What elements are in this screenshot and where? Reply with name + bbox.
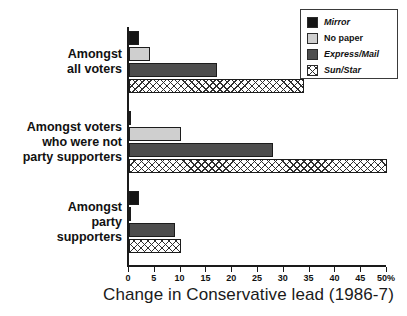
legend-swatch-icon [307, 17, 318, 28]
category-label-line: party supporters [0, 150, 122, 165]
category-label-line: Amongst [0, 200, 122, 215]
x-axis-tick [257, 267, 258, 272]
legend-item-sun-star[interactable]: Sun/Star [307, 63, 397, 78]
category-label-line: all voters [0, 62, 122, 77]
category-label-line: Amongst voters [0, 120, 122, 135]
x-axis-tick-label: 40 [329, 273, 339, 283]
legend-swatch-icon [307, 49, 318, 60]
x-axis-tick [128, 267, 129, 272]
x-axis-tick-label: 10 [175, 273, 185, 283]
x-axis-tick [334, 267, 335, 272]
legend-item-mirror[interactable]: Mirror [307, 15, 397, 30]
bar [129, 79, 304, 93]
bar [129, 191, 139, 205]
x-axis-tick-label: 45 [355, 273, 365, 283]
x-axis-tick [309, 267, 310, 272]
bar [129, 63, 217, 77]
x-axis-tick-label: 30 [278, 273, 288, 283]
x-axis-tick [386, 267, 387, 272]
bar [129, 207, 131, 221]
bar [129, 143, 273, 157]
category-label-line: who were not [0, 135, 122, 150]
legend-item-no-paper[interactable]: No paper [307, 31, 397, 46]
category-axis-labels: Amongstall votersAmongst voterswho were … [0, 27, 122, 265]
bar [129, 239, 181, 253]
legend-label: Mirror [324, 17, 350, 28]
x-axis-tick-label: 0 [125, 273, 130, 283]
bar [129, 31, 139, 45]
x-axis-tick [154, 267, 155, 272]
legend: MirrorNo paperExpress/MailSun/Star [300, 9, 398, 79]
x-axis-tick [231, 267, 232, 272]
x-axis-tick-label: 25 [252, 273, 262, 283]
x-axis-tick [360, 267, 361, 272]
bar [129, 127, 181, 141]
bar [129, 223, 175, 237]
x-axis-tick-label: 15 [200, 273, 210, 283]
category-label-line: supporters [0, 230, 122, 245]
x-axis-tick [205, 267, 206, 272]
bar-chart: Amongstall votersAmongst voterswho were … [0, 0, 407, 316]
x-axis-tick-label: 35 [304, 273, 314, 283]
category-label: Amongstall voters [0, 47, 122, 77]
category-label-line: party [0, 215, 122, 230]
x-axis-title: Change in Conservative lead (1986-7) [90, 285, 407, 305]
legend-swatch-icon [307, 65, 318, 76]
legend-label: Express/Mail [324, 49, 379, 60]
bar [129, 111, 131, 125]
x-axis-tick [283, 267, 284, 272]
category-label: Amongst voterswho were notparty supporte… [0, 120, 122, 165]
x-axis-tick-label: 5 [151, 273, 156, 283]
category-label: Amongstpartysupporters [0, 200, 122, 245]
category-label-line: Amongst [0, 47, 122, 62]
x-axis-tick-label: 20 [226, 273, 236, 283]
legend-label: No paper [324, 33, 363, 44]
bar [129, 47, 150, 61]
legend-label: Sun/Star [324, 65, 361, 76]
x-axis-tick [180, 267, 181, 272]
legend-swatch-icon [307, 33, 318, 44]
legend-item-express-mail[interactable]: Express/Mail [307, 47, 397, 62]
bar [129, 159, 387, 173]
x-axis-tick-label: 50% [377, 273, 395, 283]
